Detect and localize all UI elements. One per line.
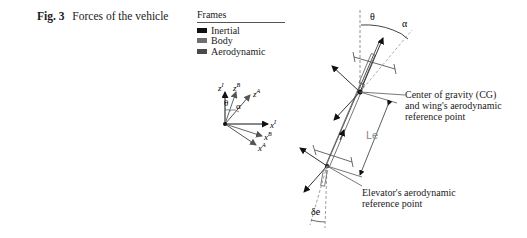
svg-text:θ: θ (224, 98, 228, 108)
svg-text:α: α (236, 101, 241, 111)
svg-text:xB: xB (263, 131, 272, 142)
frames-axes-diagram (223, 92, 268, 145)
elevator-label-line: Elevator's aerodynamic (362, 187, 456, 198)
cg-label-line: reference point (405, 111, 502, 122)
cg-label-line: and wing's aerodynamic (405, 100, 502, 111)
svg-text:θ: θ (370, 11, 375, 22)
svg-text:zA: zA (252, 88, 261, 99)
svg-text:zB: zB (232, 82, 241, 93)
svg-text:δe: δe (311, 206, 321, 217)
svg-text:α: α (402, 18, 408, 29)
svg-text:xA: xA (257, 142, 266, 153)
cg-label: Center of gravity (CG) and wing's aerody… (405, 89, 502, 122)
svg-text:Le: Le (366, 129, 378, 141)
cg-label-line: Center of gravity (CG) (405, 89, 502, 100)
elevator-label-line: reference point (362, 198, 456, 209)
elevator-label: Elevator's aerodynamic reference point (362, 187, 456, 209)
svg-text:xI: xI (269, 119, 277, 130)
svg-text:zI: zI (217, 82, 225, 93)
